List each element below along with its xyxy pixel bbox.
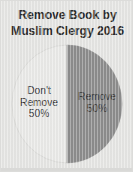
pie-label-remove-line-1: Remove	[69, 91, 125, 103]
chart-title: Remove Book by Muslim Clergy 2016	[1, 7, 133, 39]
pie-label-dont-remove-value: 50%	[11, 108, 67, 120]
pie-chart-figure: Remove Book by Muslim Clergy 2016 Don't …	[0, 0, 133, 172]
pie-label-remove: Remove 50%	[69, 91, 125, 114]
bottom-edge-shade	[1, 168, 133, 171]
pie-label-dont-remove: Don't Remove 50%	[11, 85, 67, 120]
pie-label-dont-remove-line-1: Don't	[11, 85, 67, 97]
pie-label-dont-remove-line-2: Remove	[11, 97, 67, 109]
chart-title-line-2: Muslim Clergy 2016	[1, 23, 133, 39]
chart-title-line-1: Remove Book by	[1, 7, 133, 23]
pie-label-remove-value: 50%	[69, 103, 125, 115]
